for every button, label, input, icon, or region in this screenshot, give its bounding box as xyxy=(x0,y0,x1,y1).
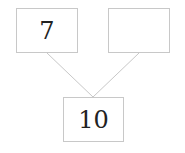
part-box-right[interactable] xyxy=(108,8,170,53)
part-left-value: 7 xyxy=(39,17,54,45)
whole-box: 10 xyxy=(63,97,124,142)
connector-right xyxy=(93,53,139,97)
whole-value: 10 xyxy=(78,106,109,134)
connector-left xyxy=(47,53,93,97)
part-box-left: 7 xyxy=(16,8,78,53)
